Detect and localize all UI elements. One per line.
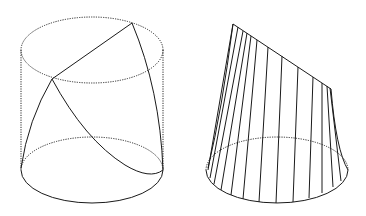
ruling-lines [208, 24, 341, 203]
ruling-line [293, 67, 298, 202]
ruling-line [259, 47, 268, 202]
ruling-line [210, 27, 238, 178]
cylinder-bottom-ellipse-front [21, 170, 163, 203]
cylinder-curve-left [21, 79, 52, 168]
ruling-line [309, 77, 313, 198]
left-figure-cylinder [21, 17, 163, 203]
cylinder-curve-diagonal [52, 79, 163, 174]
cylinder-bottom-ellipse-back [21, 137, 163, 170]
cylinder-chord-line [52, 23, 132, 79]
diagram-canvas [0, 0, 366, 216]
ruling-line [231, 36, 251, 195]
right-figure-ruled-surface [206, 24, 348, 203]
cylinder-curve-right [132, 23, 163, 170]
ruling-line [221, 33, 247, 190]
ruling-line [276, 56, 282, 203]
ruling-line [243, 40, 257, 199]
ruled-right-silhouette [331, 89, 348, 170]
